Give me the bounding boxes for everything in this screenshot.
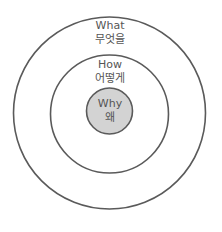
what-label: What 무엇을 [70,19,150,47]
why-label: Why 왜 [70,97,150,125]
how-label-ko: 어떻게 [70,72,150,86]
how-label: How 어떻게 [70,58,150,86]
what-label-ko: 무엇을 [70,33,150,47]
what-label-en: What [70,19,150,33]
why-label-ko: 왜 [70,111,150,125]
why-label-en: Why [70,97,150,111]
how-label-en: How [70,58,150,72]
